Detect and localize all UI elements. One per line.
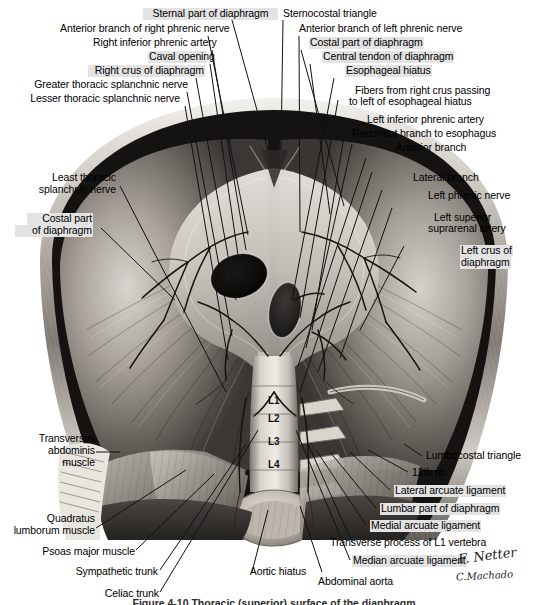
label-medial-arcuate-ligament: Medial arcuate ligament xyxy=(370,520,481,532)
label-recurrent-branch-to-esophagus: Recurrent branch to esophagus xyxy=(352,128,496,140)
label-right-inferior-phrenic-artery: Right inferior phrenic artery xyxy=(93,37,208,49)
label-left-crus-of-diaphragm-line2: diaphragm xyxy=(460,257,511,269)
label-sympathetic-trunk: Sympathetic trunk xyxy=(58,566,158,578)
label-caval-opening: Caval opening xyxy=(148,51,207,63)
label-transversus-abdominis-muscle-line1: Transversus xyxy=(10,433,95,445)
label-left-crus-of-diaphragm-line1: Left crus of xyxy=(460,245,513,257)
label-lumbocostal-triangle: Lumbocostal triangle xyxy=(426,450,521,462)
label-lumbar-part-of-diaphragm: Lumbar part of diaphragm xyxy=(380,503,500,515)
label-left-phrenic-nerve: Left phrenic nerve xyxy=(428,190,510,202)
vertebra-label-l2: L2 xyxy=(268,413,280,424)
label-fibers-from-right-crus-line2: to left of esophageal hiatus xyxy=(349,96,472,108)
label-aortic-hiatus: Aortic hiatus xyxy=(241,566,315,578)
vertebra-label-l4: L4 xyxy=(268,459,280,470)
label-lateral-branch: Lateral branch xyxy=(413,172,479,184)
label-esophageal-hiatus: Esophageal hiatus xyxy=(345,65,432,77)
label-median-arcuate-ligament: Median arcuate ligament xyxy=(352,555,467,567)
label-left-superior-suprarenal-artery-line2: suprarenal artery xyxy=(428,223,506,235)
label-sternocostal-triangle: Sternocostal triangle xyxy=(283,8,377,20)
label-psoas-major-muscle: Psoas major muscle xyxy=(30,546,135,558)
label-quadratus-lumborum-muscle-line2: lumborum muscle xyxy=(2,525,95,537)
label-transversus-abdominis-muscle-line2: abdominis xyxy=(10,445,95,457)
vertebra-label-l3: L3 xyxy=(268,436,280,447)
label-costal-part-of-diaphragm-left-line1: Costal part xyxy=(27,213,93,225)
label-transverse-process-of-l1-vertebra: Transverse process of L1 vertebra xyxy=(330,537,486,549)
label-costal-part-of-diaphragm: Costal part of diaphragm xyxy=(309,37,424,49)
label-greater-thoracic-splanchnic-nerve: Greater thoracic splanchnic nerve xyxy=(28,79,188,91)
anatomy-plate: Sternal part of diaphragm Sternocostal t… xyxy=(0,0,548,605)
vertebra-label-l1: L1 xyxy=(268,395,280,406)
label-least-thoracic-splanchnic-nerve-line1: Least thoracic xyxy=(32,172,116,184)
label-quadratus-lumborum-muscle-line1: Quadratus xyxy=(10,513,95,525)
label-costal-part-of-diaphragm-left-line2: of diaphragm xyxy=(15,225,93,237)
label-anterior-branch-of-left-phrenic-nerve: Anterior branch of left phrenic nerve xyxy=(299,23,462,35)
label-transversus-abdominis-muscle-line3: muscle xyxy=(10,457,95,469)
label-abdominal-aorta: Abdominal aorta xyxy=(318,576,393,588)
label-lateral-arcuate-ligament: Lateral arcuate ligament xyxy=(394,485,506,497)
label-left-inferior-phrenic-artery: Left inferior phrenic artery xyxy=(367,114,484,126)
label-sternal-part-of-diaphragm: Sternal part of diaphragm xyxy=(143,8,278,20)
label-central-tendon-of-diaphragm: Central tendon of diaphragm xyxy=(322,51,454,63)
label-12th-rib: 12th rib xyxy=(412,467,446,479)
label-right-crus-of-diaphragm: Right crus of diaphragm xyxy=(88,65,205,77)
label-anterior-branch-of-right-phrenic-nerve: Anterior branch of right phrenic nerve xyxy=(60,23,208,35)
label-least-thoracic-splanchnic-nerve-line2: splanchnic nerve xyxy=(20,184,116,196)
label-anterior-branch: Anterior branch xyxy=(396,142,466,154)
figure-caption: Figure 4-10 Thoracic (superior) surface … xyxy=(0,597,548,605)
label-lesser-thoracic-splanchnic-nerve: Lesser thoracic splanchnic nerve xyxy=(23,93,180,105)
